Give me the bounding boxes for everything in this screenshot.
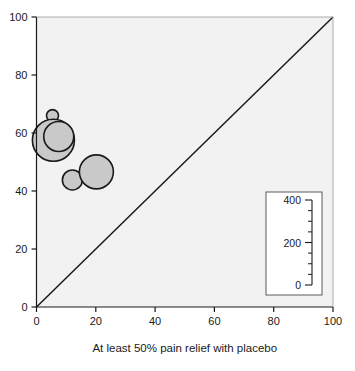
x-tick-label: 60 [208, 315, 220, 327]
y-tick-label: 20 [15, 243, 27, 255]
x-tick-label: 20 [90, 315, 102, 327]
x-tick-label: 0 [33, 315, 39, 327]
legend-tick-label: 0 [295, 279, 301, 291]
bubble-5[interactable] [79, 155, 113, 189]
x-tick-label: 100 [324, 315, 342, 327]
x-tick-label: 40 [149, 315, 161, 327]
y-tick-label: 40 [15, 185, 27, 197]
bubble-chart: 0200400 020406080100020406080100At least… [0, 0, 355, 371]
y-tick-label: 60 [15, 127, 27, 139]
chart-figure: 0200400 020406080100020406080100At least… [0, 0, 355, 371]
x-axis-title: At least 50% pain relief with placebo [92, 342, 277, 354]
x-tick-label: 80 [268, 315, 280, 327]
y-tick-label: 0 [21, 301, 27, 313]
legend-tick-label: 400 [283, 194, 301, 206]
legend-tick-label: 200 [283, 237, 301, 249]
y-tick-label: 100 [9, 11, 27, 23]
y-tick-label: 80 [15, 69, 27, 81]
bubble-3[interactable] [44, 121, 74, 151]
